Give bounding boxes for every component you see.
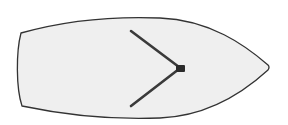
sailboat-diagram: Top view of a sailboat hull with mast an… — [0, 0, 288, 125]
hull-shape — [17, 18, 269, 119]
mast-icon — [176, 65, 185, 72]
diagram-canvas — [0, 0, 288, 125]
